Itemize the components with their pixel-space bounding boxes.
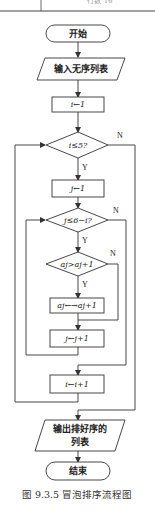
output-label-line1: 输出排好序的	[53, 423, 107, 434]
cond-compare-yes-label: Y	[82, 280, 88, 289]
init-i-label: i←1	[71, 100, 85, 109]
cond-inner-no-label: N	[113, 206, 119, 215]
output-label-line2: 列表	[71, 436, 90, 447]
input-label: 输入无序列表	[54, 63, 109, 74]
bubble-sort-flowchart: 行数 16 开始 输入无序列表 i←1 i≤5? N Y j←1 j≤6−i? …	[0, 0, 155, 520]
table-fragment-text: 行数 16	[87, 0, 113, 5]
init-j-label: j←1	[69, 184, 85, 193]
cond-outer-no-label: N	[117, 131, 123, 140]
cond-inner-label: j≤6−i?	[62, 216, 93, 225]
inc-j-label: j←j+1	[63, 334, 88, 343]
cond-inner-yes-label: Y	[82, 236, 88, 245]
figure-caption: 图 9.3.5 冒泡排序流程图	[22, 489, 132, 500]
cond-compare-no-label: N	[110, 249, 116, 258]
end-label: 结束	[69, 465, 88, 476]
cond-outer-yes-label: Y	[82, 163, 88, 172]
cond-outer-label: i≤5?	[69, 141, 88, 150]
swap-label: aj←→aj+1	[57, 301, 97, 310]
cond-compare-label: aj>aj+1	[61, 260, 94, 269]
inc-i-label: i←i+1	[65, 380, 89, 389]
start-label: 开始	[69, 28, 87, 39]
table-fragment: 行数 16	[0, 0, 155, 11]
